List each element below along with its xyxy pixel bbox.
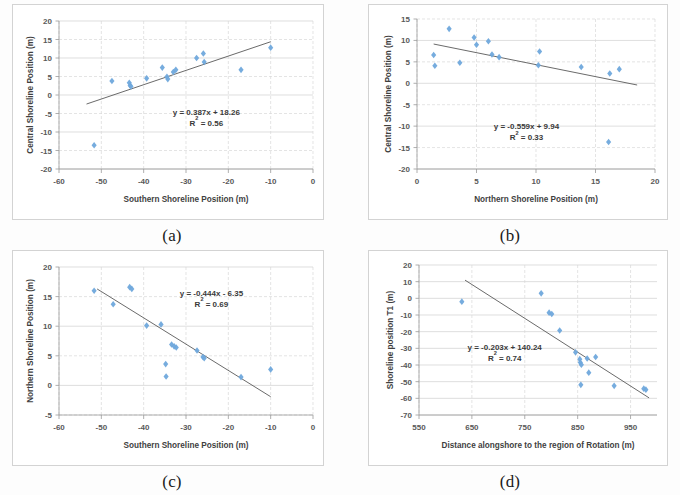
svg-text:10: 10 bbox=[43, 54, 52, 63]
svg-text:-10: -10 bbox=[398, 122, 410, 131]
svg-text:-30: -30 bbox=[180, 177, 192, 186]
data-point bbox=[447, 26, 452, 33]
svg-text:-60: -60 bbox=[53, 177, 65, 186]
scatter-chart-c: -505101520-60-50-40-30-20-100Southern Sh… bbox=[13, 251, 325, 467]
regression-equation: y = -0.559x + 9.94 bbox=[494, 122, 560, 131]
chart-plot-frame-a: -20-15-10-505101520-60-50-40-30-20-100So… bbox=[12, 4, 324, 220]
svg-text:5: 5 bbox=[48, 73, 53, 82]
svg-text:-70: -70 bbox=[400, 411, 412, 420]
data-point bbox=[164, 373, 169, 380]
svg-text:-50: -50 bbox=[400, 378, 412, 387]
data-point bbox=[268, 366, 273, 373]
svg-text:0: 0 bbox=[311, 177, 316, 186]
svg-text:0: 0 bbox=[406, 79, 411, 88]
svg-text:0: 0 bbox=[48, 381, 53, 390]
chart-panel-d: -70-60-50-40-30-20-100102055065075085095… bbox=[344, 248, 676, 494]
chart-plot-frame-d: -70-60-50-40-30-20-100102055065075085095… bbox=[368, 250, 668, 466]
data-point bbox=[109, 78, 114, 85]
data-point bbox=[539, 290, 544, 297]
r-squared-label: R2 = 0.74 bbox=[488, 350, 522, 363]
regression-equation: y = -0.444x - 6.35 bbox=[180, 289, 244, 298]
svg-text:-60: -60 bbox=[400, 394, 412, 403]
svg-text:0: 0 bbox=[415, 177, 420, 186]
svg-text:Shoreline position T1 (m): Shoreline position T1 (m) bbox=[386, 291, 395, 390]
data-point bbox=[474, 41, 479, 48]
regression-equation: y = -0.203x + 140.24 bbox=[468, 343, 543, 352]
svg-text:5: 5 bbox=[406, 58, 411, 67]
svg-text:15: 15 bbox=[43, 36, 52, 45]
data-point bbox=[111, 301, 116, 308]
data-point bbox=[457, 59, 462, 66]
svg-text:550: 550 bbox=[412, 423, 426, 432]
svg-text:5: 5 bbox=[48, 352, 53, 361]
svg-text:-40: -40 bbox=[400, 361, 412, 370]
data-point bbox=[431, 52, 436, 59]
svg-text:-20: -20 bbox=[398, 165, 410, 174]
data-point bbox=[268, 44, 273, 51]
svg-text:750: 750 bbox=[518, 423, 532, 432]
svg-text:Central Shoreline Position (m): Central Shoreline Position (m) bbox=[384, 35, 393, 153]
svg-text:-10: -10 bbox=[265, 423, 277, 432]
panel-caption-b: (b) bbox=[344, 226, 676, 246]
svg-text:10: 10 bbox=[43, 322, 52, 331]
data-point bbox=[607, 70, 612, 77]
data-point bbox=[194, 55, 199, 62]
svg-text:-10: -10 bbox=[40, 128, 52, 137]
svg-text:-15: -15 bbox=[40, 147, 52, 156]
scatter-chart-a: -20-15-10-505101520-60-50-40-30-20-100So… bbox=[13, 5, 325, 221]
svg-text:-5: -5 bbox=[45, 110, 53, 119]
svg-text:20: 20 bbox=[403, 261, 412, 270]
svg-text:-30: -30 bbox=[400, 344, 412, 353]
data-point bbox=[92, 287, 97, 294]
data-point bbox=[459, 298, 464, 305]
svg-text:950: 950 bbox=[624, 423, 638, 432]
data-point bbox=[238, 67, 243, 74]
svg-text:20: 20 bbox=[43, 17, 52, 26]
svg-text:10: 10 bbox=[532, 177, 541, 186]
data-point bbox=[472, 34, 477, 41]
svg-text:20: 20 bbox=[43, 263, 52, 272]
data-point bbox=[163, 361, 168, 368]
svg-text:-50: -50 bbox=[96, 177, 108, 186]
panel-caption-a: (a) bbox=[4, 226, 340, 246]
chart-panel-c: -505101520-60-50-40-30-20-100Southern Sh… bbox=[4, 248, 340, 494]
svg-text:Distance alongshore to the reg: Distance alongshore to the region of Rot… bbox=[442, 441, 635, 450]
svg-text:15: 15 bbox=[591, 177, 600, 186]
chart-plot-frame-b: -20-15-10-505101505101520Northern Shorel… bbox=[368, 4, 668, 220]
panel-caption-d: (d) bbox=[344, 472, 676, 492]
data-point bbox=[586, 369, 591, 376]
svg-text:-5: -5 bbox=[45, 411, 53, 420]
svg-text:15: 15 bbox=[43, 293, 52, 302]
data-point bbox=[617, 66, 622, 73]
data-point bbox=[486, 38, 491, 45]
svg-text:-20: -20 bbox=[400, 328, 412, 337]
data-point bbox=[144, 75, 149, 82]
data-point bbox=[606, 139, 611, 146]
svg-text:Northern Shoreline Position (m: Northern Shoreline Position (m) bbox=[26, 279, 35, 403]
scatter-chart-b: -20-15-10-505101505101520Northern Shorel… bbox=[369, 5, 669, 221]
data-point bbox=[585, 355, 590, 362]
svg-text:650: 650 bbox=[465, 423, 479, 432]
svg-text:-20: -20 bbox=[40, 165, 52, 174]
svg-text:20: 20 bbox=[651, 177, 660, 186]
data-point bbox=[579, 64, 584, 71]
svg-text:Southern Shoreline Position (m: Southern Shoreline Position (m) bbox=[123, 441, 248, 450]
r-squared-label: R2 = 0.56 bbox=[190, 115, 224, 128]
r-squared-label: R2 = 0.33 bbox=[510, 130, 544, 143]
svg-text:10: 10 bbox=[403, 278, 412, 287]
svg-text:0: 0 bbox=[408, 294, 413, 303]
panel-caption-c: (c) bbox=[4, 472, 340, 492]
svg-text:Northern Shoreline Position (m: Northern Shoreline Position (m) bbox=[474, 195, 598, 204]
data-point bbox=[537, 48, 542, 55]
svg-text:-20: -20 bbox=[223, 423, 235, 432]
data-point bbox=[578, 382, 583, 389]
data-point bbox=[194, 347, 199, 354]
svg-text:-50: -50 bbox=[96, 423, 108, 432]
svg-text:-20: -20 bbox=[223, 177, 235, 186]
svg-text:15: 15 bbox=[401, 15, 410, 24]
r-squared-label: R2 = 0.69 bbox=[195, 296, 229, 309]
svg-text:-40: -40 bbox=[138, 177, 150, 186]
svg-text:10: 10 bbox=[401, 36, 410, 45]
data-point bbox=[144, 322, 149, 329]
data-point bbox=[201, 50, 206, 57]
